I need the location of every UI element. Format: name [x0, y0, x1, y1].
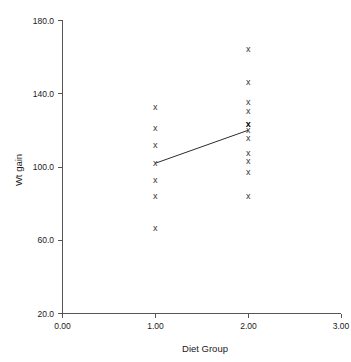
x-tick-label-0: 0.00 [54, 321, 71, 331]
scatter-plot-figure: 180.0 140.0 100.0 60.0 20.0 0.00 1.00 2.… [0, 0, 351, 362]
data-point-marker: x [153, 140, 158, 150]
group-mean-connector-line [155, 130, 248, 163]
data-point-marker: x [153, 158, 158, 168]
x-tick-label-1: 1.00 [147, 321, 164, 331]
y-tick-label-100: 100.0 [33, 162, 55, 172]
y-axis-title: Wt gain [13, 154, 24, 186]
y-tick-label-20: 20.0 [37, 309, 54, 319]
data-point-marker: x [246, 133, 251, 143]
data-point-marker: x [246, 191, 251, 201]
data-point-marker: x [153, 223, 158, 233]
y-axis-ticks [58, 21, 63, 314]
y-tick-label-140: 140.0 [33, 89, 55, 99]
plot-canvas: 180.0 140.0 100.0 60.0 20.0 0.00 1.00 2.… [0, 0, 351, 362]
data-point-marker: x [246, 106, 251, 116]
data-point-marker: x [153, 102, 158, 112]
x-axis-title: Diet Group [182, 343, 228, 354]
data-point-marker: x [153, 123, 158, 133]
x-tick-label-2: 2.00 [240, 321, 257, 331]
x-axis-ticks [63, 314, 342, 319]
x-tick-label-3: 3.00 [333, 321, 350, 331]
data-point-marker: x [153, 191, 158, 201]
data-point-marker: x [153, 175, 158, 185]
data-point-marker: x [246, 44, 251, 54]
y-tick-label-60: 60.0 [37, 235, 54, 245]
data-point-marker: x [246, 77, 251, 87]
y-tick-label-180: 180.0 [33, 16, 55, 26]
data-points-layer: xxxxxxxxxxxxxxxxxx [153, 44, 251, 232]
data-point-marker: x [246, 156, 251, 166]
data-point-marker: x [246, 167, 251, 177]
